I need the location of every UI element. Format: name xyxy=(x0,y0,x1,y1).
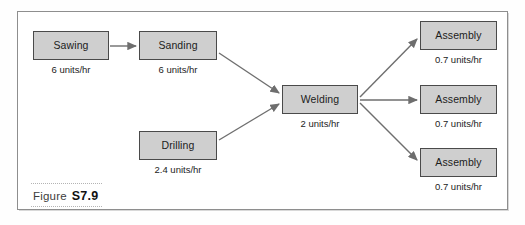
process-node-assembly-3[interactable]: Assembly xyxy=(420,148,497,177)
process-flow-figure: Sawing6 units/hrSanding6 units/hrDrillin… xyxy=(0,0,525,225)
process-node-assembly-2[interactable]: Assembly xyxy=(420,85,497,114)
process-node-welding[interactable]: Welding xyxy=(282,85,358,114)
process-node-label: Assembly xyxy=(435,94,481,105)
process-rate-assembly-3: 0.7 units/hr xyxy=(417,182,500,192)
process-rate-assembly-2: 0.7 units/hr xyxy=(417,119,500,129)
process-rate-drilling: 2.4 units/hr xyxy=(136,165,220,175)
process-node-assembly-1[interactable]: Assembly xyxy=(420,21,497,50)
process-node-label: Sanding xyxy=(158,40,197,51)
process-rate-sawing: 6 units/hr xyxy=(33,65,109,75)
process-node-sawing[interactable]: Sawing xyxy=(33,31,109,60)
process-rate-assembly-1: 0.7 units/hr xyxy=(417,55,500,65)
process-rate-welding: 2 units/hr xyxy=(282,119,358,129)
figure-caption-number: S7.9 xyxy=(72,189,99,203)
figure-caption: FigureS7.9 xyxy=(31,183,102,207)
process-node-label: Welding xyxy=(301,94,339,105)
figure-caption-word: Figure xyxy=(33,190,67,202)
process-rate-sanding: 6 units/hr xyxy=(139,65,217,75)
process-node-drilling[interactable]: Drilling xyxy=(139,131,217,160)
process-node-label: Assembly xyxy=(435,30,481,41)
process-node-sanding[interactable]: Sanding xyxy=(139,31,217,60)
process-node-label: Drilling xyxy=(162,140,195,151)
process-node-label: Sawing xyxy=(53,40,88,51)
process-node-label: Assembly xyxy=(435,157,481,168)
